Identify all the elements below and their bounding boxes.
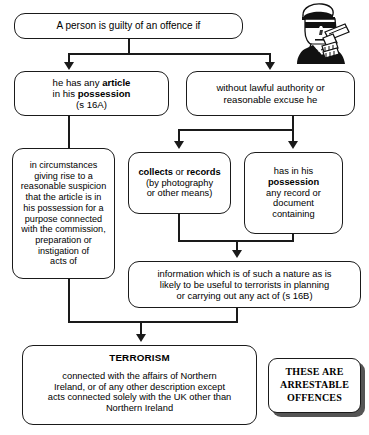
arrowhead-to-collects [174,141,184,149]
box-terrorism-definition: TERRORISM connected with the affairs of … [22,345,257,425]
connector-top-stem [128,39,130,54]
box-collects-records-line3: or other means) [147,188,213,199]
box-article-possession-line2: in his possession [53,88,131,99]
box-article-possession-section: (s 16A) [76,99,107,110]
box-circumstances-line1: in circumstances [30,160,98,171]
box-circumstances-line10: acts of [50,256,77,267]
article-line2-plain: in his [53,88,78,99]
arrowhead-to-terrorism [136,334,146,342]
box-has-record-possession-keyword: possession [268,177,319,188]
box-arrestable-line3: OFFENCES [287,392,342,405]
box-without-lawful-authority-line2: reasonable excuse he [224,94,318,105]
box-without-lawful-authority: without lawful authority or reasonable e… [186,71,355,116]
box-circumstances-line8: preparation or [35,235,92,246]
box-circumstances-line5: his possession for a [23,203,103,214]
connector-collects-down [178,214,180,242]
box-has-record-line1: has in his [274,166,313,177]
box-arrestable-offences: THESE ARE ARRESTABLE OFFENCES [268,358,361,413]
arrowhead-to-right-branch [265,62,275,70]
box-collects-records: collects or records (by photography or o… [128,152,231,214]
box-circumstances-line3: reasonable suspicion [21,181,106,192]
box-information-useful-to-terrorists: information which is of such a nature as… [128,261,361,308]
box-information-line1: information which is of such a nature as… [157,268,331,279]
arrowhead-to-left-branch [64,62,74,70]
box-arrestable-line2: ARRESTABLE [280,379,349,392]
box-circumstances-line4: that the article is in [26,192,102,203]
possession-keyword: possession [78,88,131,99]
article-keyword: article [102,77,130,88]
box-terrorism-line3: acts connected solely with the UK other … [48,392,231,403]
box-circumstances-line6: purpose connected [25,214,102,225]
box-offence-condition-text: A person is guilty of an offence if [57,20,201,32]
box-has-record-document: has in his possession any record or docu… [244,152,343,234]
box-offence-condition: A person is guilty of an offence if [14,13,243,39]
connector-left-to-circumstances [68,116,70,148]
box-without-lawful-authority-line1: without lawful authority or [216,82,324,93]
connector-circumstances-down [68,279,70,323]
box-collects-records-line2: (by photography [146,178,213,189]
box-terrorism-line2: Ireland, or of any other description exc… [48,382,231,393]
box-terrorism-line1: connected with the affairs of Northern [48,371,231,382]
box-information-line3: or carrying out any act of (s 16B) [177,290,313,301]
records-keyword: records [186,167,220,177]
flowchart-diagram: A person is guilty of an offence if he h… [0,0,369,435]
box-terrorism-line4: Northern Ireland [48,403,231,414]
box-has-record-line3: any record or [266,188,321,199]
connector-top-split-bar [68,53,271,55]
box-article-possession-line1: he has any article [53,77,131,88]
connector-terrorism-merge-bar [68,321,238,323]
article-line1-plain: he has any [53,77,103,88]
arrowhead-to-has-record [288,141,298,149]
box-arrestable-line1: THESE ARE [285,366,343,379]
box-circumstances-line9: instigation of [38,246,89,257]
collects-conjunction: or [173,167,186,177]
box-terrorism-body: connected with the affairs of Northern I… [48,371,231,415]
box-collects-records-line1: collects or records [138,167,220,178]
box-article-possession: he has any article in his possession (s … [14,71,169,116]
terrorist-figure-illustration [289,2,355,64]
arrowhead-to-information [232,250,242,258]
connector-right-split-bar [178,129,294,131]
box-has-record-line4: document [273,198,314,209]
box-circumstances: in circumstances giving rise to a reason… [12,148,115,279]
box-circumstances-line7: with the commission, [21,224,105,235]
box-terrorism-title: TERRORISM [109,352,170,364]
box-has-record-line5: containing [272,209,314,220]
box-circumstances-line2: giving rise to a [34,171,93,182]
collects-keyword: collects [138,167,173,177]
box-information-line2: likely to be useful to terrorists in pla… [160,279,329,290]
